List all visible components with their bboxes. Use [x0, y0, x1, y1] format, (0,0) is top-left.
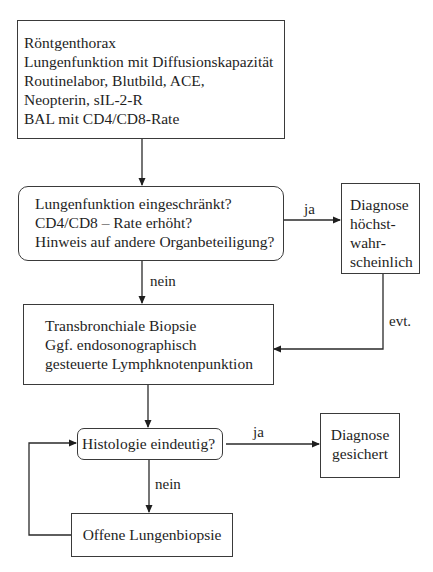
arrow-loop-back — [29, 443, 76, 535]
workup-line-3: Routinelabor, Blutbild, ACE, — [24, 71, 273, 90]
edge-label-ja-1: ja — [304, 201, 315, 218]
biopsy-line-2: Ggf. endosonographisch — [45, 335, 253, 354]
node-transbronchial-biopsy-text: Transbronchiale Biopsie Ggf. endosonogra… — [45, 316, 253, 373]
decision1-line-2: CD4/CD8 – Rate erhöht? — [35, 213, 274, 232]
open-biopsy-line-1: Offene Lungenbiopsie — [71, 525, 233, 544]
probable-line-2: höchst- — [350, 214, 413, 233]
arrow-evt — [274, 273, 383, 349]
node-decision-1-text: Lungenfunktion eingeschränkt? CD4/CD8 – … — [35, 194, 274, 251]
probable-line-1: Diagnose — [350, 195, 413, 214]
decision1-line-3: Hinweis auf andere Organbeteiligung? — [35, 232, 274, 251]
node-diagnosis-probable-text: Diagnose höchst- wahr- scheinlich — [350, 195, 413, 271]
decision1-line-1: Lungenfunktion eingeschränkt? — [35, 194, 274, 213]
edge-label-nein-2: nein — [155, 476, 181, 493]
workup-line-4: Neopterin, sIL-2-R — [24, 90, 273, 109]
node-diagnosis-confirmed-text: Diagnose gesichert — [320, 425, 400, 463]
decision2-line-1: Histologie eindeutig? — [82, 434, 215, 453]
probable-line-3: wahr- — [350, 233, 413, 252]
edge-label-ja-2: ja — [253, 424, 264, 441]
confirmed-line-1: Diagnose — [320, 425, 400, 444]
confirmed-line-2: gesichert — [320, 444, 400, 463]
node-decision-2-text: Histologie eindeutig? — [82, 434, 215, 453]
workup-line-2: Lungenfunktion mit Diffusionskapazität — [24, 52, 273, 71]
workup-line-1: Röntgenthorax — [24, 33, 273, 52]
biopsy-line-1: Transbronchiale Biopsie — [45, 316, 253, 335]
probable-line-4: scheinlich — [350, 252, 413, 271]
node-initial-workup-text: Röntgenthorax Lungenfunktion mit Diffusi… — [24, 33, 273, 128]
edge-label-evt: evt. — [389, 313, 411, 330]
node-open-lung-biopsy-text: Offene Lungenbiopsie — [71, 525, 233, 544]
workup-line-5: BAL mit CD4/CD8-Rate — [24, 109, 273, 128]
edge-label-nein-1: nein — [150, 273, 176, 290]
biopsy-line-3: gesteuerte Lymphknotenpunktion — [45, 354, 253, 373]
